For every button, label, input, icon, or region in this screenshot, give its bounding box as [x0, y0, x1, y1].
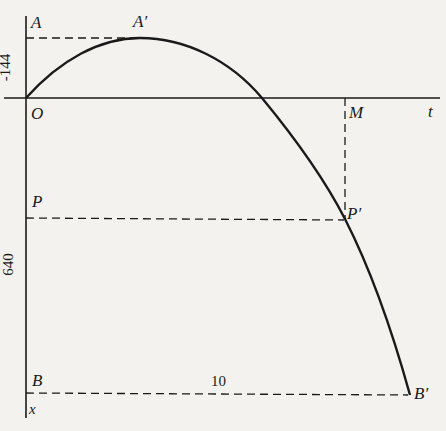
- dashed-line-b: [26, 393, 408, 395]
- label-m: M: [349, 104, 363, 121]
- diagram-canvas: [0, 0, 446, 431]
- label-origin: O: [31, 105, 43, 122]
- label-t-axis: t: [428, 103, 433, 120]
- label-a: A: [31, 14, 41, 31]
- label-minus-144: -144: [0, 54, 13, 82]
- label-640: 640: [1, 253, 16, 276]
- label-a-prime: A′: [133, 13, 147, 30]
- label-b-prime: B′: [414, 385, 428, 402]
- dashed-line-p: [26, 218, 344, 220]
- parabola-diagram: A A′ O M t P P′ B B′ x 10 -144 640: [0, 0, 446, 431]
- label-p: P: [32, 193, 42, 210]
- label-x-axis: x: [29, 402, 36, 417]
- label-10: 10: [211, 374, 226, 389]
- label-p-prime: P′: [347, 205, 361, 222]
- label-b: B: [32, 372, 42, 389]
